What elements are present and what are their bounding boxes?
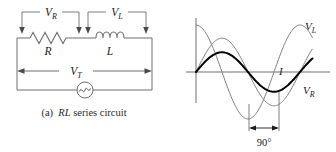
figure-background	[0, 0, 336, 152]
caption-rest: series circuit	[73, 107, 126, 118]
resistor-label: R	[43, 45, 51, 57]
v-r-label-sub: R	[51, 12, 57, 21]
figure-caption: (a) RL series circuit	[41, 107, 126, 119]
v-t-label-sub: T	[77, 71, 82, 80]
caption-prefix: (a)	[41, 107, 53, 119]
rl-series-circuit-and-waveform-figure: VR VL	[0, 0, 336, 152]
phase-angle-label: 90°	[257, 137, 272, 148]
v-l-label-sub: L	[117, 12, 123, 21]
inductor-label: L	[106, 45, 113, 57]
v-r-curve-label-sub: R	[309, 90, 315, 99]
ac-source-symbol	[77, 82, 93, 98]
caption-italic-part: RL	[57, 107, 70, 118]
v-l-curve-label-sub: L	[311, 26, 317, 35]
